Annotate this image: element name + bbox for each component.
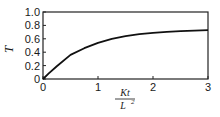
chart: 00.20.40.60.81.0 0123 T Kt L 2 [0, 0, 220, 117]
x-tick-label: 0 [40, 81, 46, 93]
y-axis-label: T [1, 45, 16, 53]
data-line [43, 30, 208, 79]
y-tick-label: 1.0 [25, 6, 40, 18]
x-axis-label-denominator: L [119, 100, 126, 111]
x-tick-label: 2 [150, 81, 156, 93]
x-axis-label-numerator: Kt [119, 87, 130, 98]
x-axis-label: Kt L 2 [115, 87, 135, 111]
y-tick-label: 0.4 [25, 46, 40, 58]
plot-frame [43, 12, 208, 79]
x-axis-label-exponent: 2 [131, 98, 135, 106]
x-tick-label: 1 [95, 81, 101, 93]
y-tick-label: 0.8 [25, 19, 40, 31]
x-tick-label: 3 [205, 81, 211, 93]
y-tick-label: 0.6 [25, 33, 40, 45]
y-tick-label: 0.2 [25, 60, 40, 72]
